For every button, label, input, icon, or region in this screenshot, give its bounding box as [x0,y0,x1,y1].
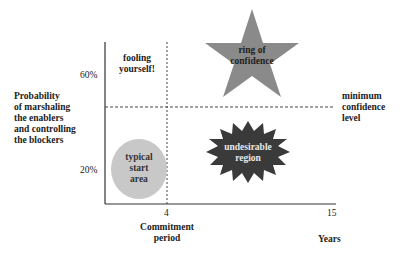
start-line: start [111,163,167,174]
undesirable-region-label: undesirable region [210,142,286,164]
ring-of-confidence-label: ring of confidence [217,45,287,67]
x-tick-15: 15 [327,208,337,219]
start-line: area [111,174,167,185]
x-tick-4: 4 [164,208,169,219]
fooling-line: fooling [110,53,164,64]
undesirable-line: undesirable [210,142,286,153]
threshold-label-line: minimum [342,91,385,102]
y-axis-label-line: Probability [14,91,94,102]
threshold-label-line: confidence [342,102,385,113]
y-axis-label: Probability of marshaling the enablers a… [14,91,94,146]
y-axis-label-line: and controlling [14,124,94,135]
fooling-line: yourself! [110,64,164,75]
fooling-yourself-label: fooling yourself! [110,53,164,75]
x-axis-label-years: Years [318,234,341,245]
y-tick-20: 20% [80,165,97,176]
ring-line: ring of [217,45,287,56]
y-tick-60: 60% [80,70,97,81]
minimum-confidence-level-label: minimum confidence level [342,91,385,124]
commitment-label-line: Commitment [128,222,206,233]
typical-start-area-label: typical start area [111,152,167,185]
y-axis-label-line: the enablers [14,113,94,124]
commitment-label-line: period [128,233,206,244]
ring-line: confidence [217,56,287,67]
threshold-label-line: level [342,113,385,124]
commitment-period-label: Commitment period [128,222,206,244]
y-axis-label-line: of marshaling [14,102,94,113]
y-axis-label-line: the blockers [14,135,94,146]
start-line: typical [111,152,167,163]
undesirable-line: region [210,153,286,164]
